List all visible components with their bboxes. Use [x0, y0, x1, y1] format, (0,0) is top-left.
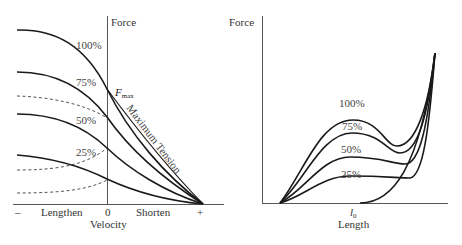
passive-length-curve: [360, 53, 435, 203]
right-label-100: 100%: [339, 97, 365, 109]
length-label: Length: [338, 218, 370, 230]
force-velocity-chart: Force 100% 75% 50% 25% Fmax Maximum Tens…: [13, 16, 224, 230]
tick-minus: –: [14, 206, 21, 218]
left-force-label: Force: [111, 16, 136, 28]
figure: Force 100% 75% 50% 25% Fmax Maximum Tens…: [0, 0, 462, 245]
maximum-tension-label: Maximum Tension: [124, 102, 184, 176]
right-force-label: Force: [229, 16, 254, 28]
label-50: 50%: [76, 114, 96, 126]
label-100: 100%: [76, 39, 102, 51]
tick-zero: 0: [105, 206, 111, 218]
dashed-curve-3: [17, 180, 107, 193]
force-length-chart: Force 100% 75% 50% 25% l0 Length: [229, 16, 448, 230]
label-75: 75%: [76, 76, 96, 88]
right-label-25: 25%: [341, 168, 361, 180]
fmax-label: Fmax: [114, 86, 134, 100]
tick-shorten: Shorten: [136, 206, 171, 218]
right-label-75: 75%: [342, 120, 362, 132]
right-label-50: 50%: [341, 143, 361, 155]
tick-plus: +: [197, 206, 203, 218]
label-25: 25%: [76, 146, 96, 158]
velocity-label: Velocity: [90, 218, 127, 230]
curve-75: [17, 72, 203, 204]
tick-lengthen: Lengthen: [41, 206, 83, 218]
